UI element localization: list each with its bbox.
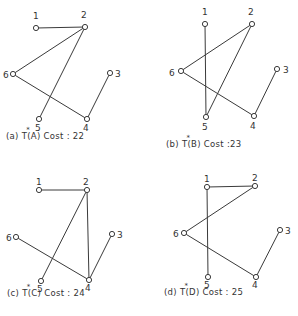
node-5 bbox=[203, 114, 208, 119]
node-5 bbox=[36, 116, 41, 121]
node-1 bbox=[202, 21, 207, 26]
node-5 bbox=[38, 278, 43, 283]
node-label-6: 6 bbox=[3, 70, 9, 80]
panel-b: 123456(b) T(B) Cost :23* bbox=[166, 7, 289, 149]
node-label-5: 5 bbox=[202, 122, 208, 132]
edge-2-5 bbox=[41, 190, 87, 281]
panel-caption: (a) T(A) Cost : 22 bbox=[6, 131, 84, 141]
node-label-6: 6 bbox=[6, 233, 12, 243]
node-1 bbox=[33, 25, 38, 30]
node-3 bbox=[107, 70, 112, 75]
edge-4-3 bbox=[254, 69, 277, 116]
panel-a: 123456(a) T(A) Cost : 22* bbox=[3, 10, 121, 141]
node-4 bbox=[86, 277, 91, 282]
node-4 bbox=[253, 274, 258, 279]
node-3 bbox=[277, 227, 282, 232]
edge-1-2 bbox=[36, 27, 85, 28]
node-label-4: 4 bbox=[252, 280, 258, 290]
node-4 bbox=[84, 116, 89, 121]
edge-1-5 bbox=[205, 24, 206, 117]
edge-2-6 bbox=[184, 186, 255, 233]
node-1 bbox=[204, 184, 209, 189]
edge-2-5 bbox=[206, 24, 252, 117]
node-label-2: 2 bbox=[83, 177, 89, 187]
node-label-1: 1 bbox=[204, 174, 210, 184]
node-label-2: 2 bbox=[252, 173, 258, 183]
spanning-tree-diagram: 123456(a) T(A) Cost : 22*123456(b) T(B) … bbox=[0, 0, 298, 316]
node-2 bbox=[249, 21, 254, 26]
edge-2-5 bbox=[39, 27, 85, 119]
edge-6-4 bbox=[184, 233, 256, 277]
edge-2-6 bbox=[181, 24, 252, 71]
node-3 bbox=[109, 231, 114, 236]
node-label-3: 3 bbox=[283, 65, 289, 75]
panel-d: 123456(d) T(D) Cost : 25* bbox=[164, 173, 291, 297]
node-label-4: 4 bbox=[250, 121, 256, 131]
star-superscript: * bbox=[26, 126, 30, 134]
node-label-3: 3 bbox=[115, 69, 121, 79]
node-2 bbox=[82, 24, 87, 29]
node-label-6: 6 bbox=[173, 229, 179, 239]
node-label-2: 2 bbox=[248, 7, 254, 17]
edge-4-3 bbox=[89, 234, 112, 280]
node-label-1: 1 bbox=[202, 7, 208, 17]
node-1 bbox=[36, 187, 41, 192]
node-6 bbox=[13, 234, 18, 239]
node-label-3: 3 bbox=[285, 226, 291, 236]
node-label-2: 2 bbox=[81, 10, 87, 20]
panel-caption: (b) T(B) Cost :23 bbox=[166, 139, 241, 149]
star-superscript: * bbox=[184, 282, 188, 290]
edge-4-3 bbox=[87, 73, 110, 119]
panel-caption: (d) T(D) Cost : 25 bbox=[164, 287, 243, 297]
edge-2-4 bbox=[87, 190, 89, 280]
star-superscript: * bbox=[186, 134, 190, 142]
node-5 bbox=[205, 274, 210, 279]
edge-6-4 bbox=[181, 71, 254, 116]
node-label-3: 3 bbox=[117, 230, 123, 240]
star-superscript: * bbox=[27, 283, 31, 291]
panel-caption: (c) T(C) Cost : 24 bbox=[7, 288, 85, 298]
edge-6-4 bbox=[16, 237, 89, 280]
edge-1-5 bbox=[207, 187, 208, 277]
node-2 bbox=[84, 187, 89, 192]
edge-6-4 bbox=[13, 74, 87, 119]
node-3 bbox=[274, 66, 279, 71]
panel-c: 123456(c) T(C) Cost : 24* bbox=[6, 177, 123, 298]
node-6 bbox=[10, 71, 15, 76]
node-label-1: 1 bbox=[33, 11, 39, 21]
node-6 bbox=[178, 68, 183, 73]
node-6 bbox=[181, 230, 186, 235]
edge-2-6 bbox=[13, 27, 85, 74]
node-2 bbox=[252, 183, 257, 188]
node-4 bbox=[251, 113, 256, 118]
edge-1-2 bbox=[207, 186, 255, 187]
node-label-4: 4 bbox=[85, 283, 91, 293]
node-label-6: 6 bbox=[169, 68, 175, 78]
edge-4-3 bbox=[256, 230, 280, 277]
node-label-1: 1 bbox=[36, 177, 42, 187]
